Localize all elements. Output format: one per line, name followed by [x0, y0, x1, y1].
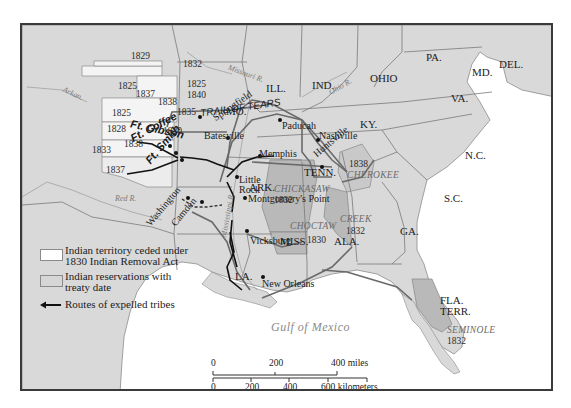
- city-label-paducah: Paducah: [282, 121, 316, 131]
- ceded-year: 1838: [158, 98, 177, 108]
- tribe-label-chickasaw: CHICKASAW: [274, 185, 330, 195]
- ceded-year: 1840: [187, 91, 206, 101]
- legend-swatch-reservation: [40, 275, 63, 287]
- map-frame: ILL. IND. OHIO PA. MD. DEL. VA. KY. N.C.…: [20, 23, 553, 391]
- city-label-vicksburg: Vicksburg: [250, 236, 291, 246]
- ceded-year: 1825: [118, 82, 137, 92]
- ceded-territory: [82, 66, 162, 76]
- legend-label-reservation-line2: treaty date: [65, 282, 111, 293]
- ceded-year: 1838: [124, 140, 143, 150]
- legend-label-ceded-line2: 1830 Indian Removal Act: [65, 256, 178, 267]
- scale-km-600: 600 kilometers: [321, 383, 378, 391]
- ceded-year: 1837: [136, 90, 155, 100]
- tribe-label-creek: CREEK: [340, 215, 372, 225]
- treaty-year-cherokee: 1838: [349, 160, 368, 170]
- state-label-va: VA.: [451, 93, 468, 104]
- tribe-label-seminole: SEMINOLE: [447, 326, 495, 336]
- state-label-sc: S.C.: [444, 193, 463, 204]
- scale-bar: 0 200 400 miles 0 200 400 600 kilometers: [211, 362, 411, 391]
- state-label-ill: ILL.: [266, 83, 286, 94]
- scale-km-400: 400: [283, 383, 297, 391]
- scale-miles-200: 200: [269, 359, 283, 369]
- state-label-md: MD.: [472, 67, 492, 78]
- ceded-year: 1829: [131, 52, 150, 62]
- ceded-year: 1825: [187, 80, 206, 90]
- city-label-batesville: Batesville: [204, 131, 244, 141]
- treaty-year-chickasaw: 1832: [274, 196, 293, 206]
- state-label-terr: TERR.: [440, 306, 471, 317]
- river-label-red: Red R.: [115, 195, 136, 203]
- city-label-new-orleans: New Orleans: [262, 279, 314, 289]
- state-label-ala: ALA.: [334, 236, 359, 247]
- state-label-ky: KY.: [360, 119, 377, 130]
- tribe-label-cherokee: CHEROKEE: [347, 171, 399, 181]
- scale-km-0: 0: [211, 383, 216, 391]
- legend: Indian territory ceded under 1830 Indian…: [40, 245, 200, 325]
- treaty-year-choctaw: 1830: [307, 236, 326, 246]
- tribe-label-choctaw: CHOCTAW: [290, 222, 336, 232]
- ceded-year: 1828: [107, 125, 126, 135]
- ceded-year: 1833: [92, 146, 111, 156]
- state-label-la: LA.: [235, 271, 252, 282]
- state-label-del: DEL.: [499, 59, 523, 70]
- legend-swatch-ceded: [40, 249, 63, 261]
- ceded-year: 1820: [163, 127, 182, 137]
- map-graphic: [22, 25, 553, 391]
- state-label-nc: N.C.: [465, 150, 486, 161]
- city-label-memphis: Memphis: [259, 149, 297, 159]
- ceded-year: 1835: [177, 108, 196, 118]
- treaty-year-seminole: 1832: [447, 337, 466, 347]
- arrow-left-icon: [40, 301, 62, 309]
- state-label-tenn: TENN.: [304, 167, 336, 178]
- ceded-year: 1832: [183, 60, 202, 70]
- scale-miles-0: 0: [211, 359, 216, 369]
- state-label-pa: PA.: [426, 52, 442, 63]
- ceded-year: 1837: [106, 166, 125, 176]
- water-label-gulf-of-mexico: Gulf of Mexico: [271, 321, 350, 333]
- scale-km-200: 200: [245, 383, 259, 391]
- treaty-year-creek: 1832: [346, 227, 365, 237]
- scale-miles-400: 400 miles: [331, 359, 368, 369]
- ceded-year: 1825: [112, 109, 131, 119]
- state-label-ga: GA.: [400, 226, 419, 237]
- legend-label-routes: Routes of expelled tribes: [65, 299, 175, 310]
- state-label-ohio: OHIO: [370, 73, 398, 84]
